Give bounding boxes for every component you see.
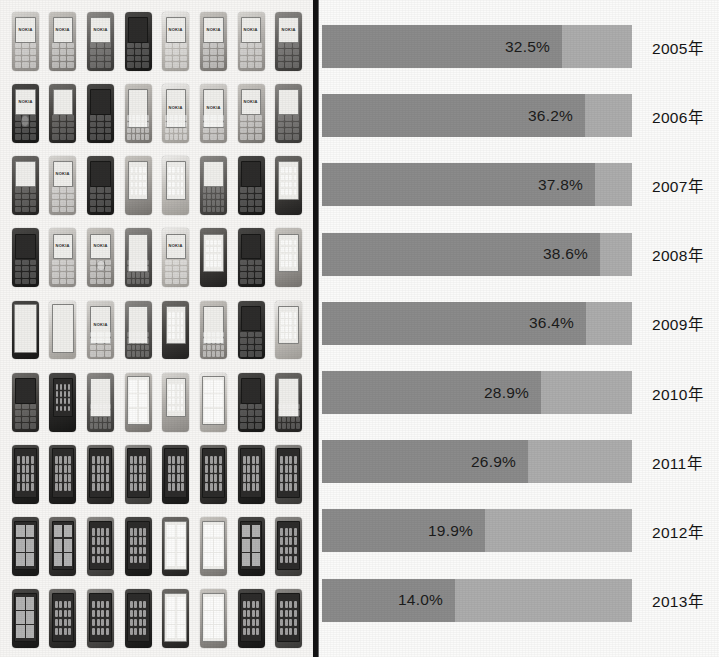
screen-tiles [129,380,147,422]
phone-screen [202,448,225,497]
nokia-brand-text: NOKIA [18,99,32,104]
screen-tile [281,326,284,332]
keypad-key [90,345,97,350]
keypad-key [103,417,107,422]
keypad-key [141,115,145,120]
phone-handset-icon: NOKIA [200,12,227,71]
screen-tile [143,465,146,473]
phone-cell: NOKIA [234,6,269,76]
keypad-key [145,134,149,139]
keypad-key [296,423,300,428]
keypad-key [203,207,207,212]
phone-cell [121,295,156,365]
screen-tile [167,597,175,610]
screen-tile [139,619,142,627]
keypad-key [212,332,216,337]
phone-keypad [203,332,225,357]
screen-tile [181,182,184,188]
screen-tile [280,556,283,564]
keypad-key [216,200,220,205]
keypad-key [296,404,300,409]
screen-tile [285,537,288,545]
screen-tile [214,247,217,253]
phone-cell [196,223,231,293]
keypad-key [97,332,104,337]
phone-cell [234,584,269,654]
keypad-key [255,272,262,277]
keypad-key [287,417,291,422]
keypad-key [127,122,131,127]
keypad-key [60,115,67,120]
screen-tile [139,483,142,491]
keypad-key [212,194,216,199]
nokia-brand-text: NOKIA [169,27,183,32]
nokia-brand-text: NOKIA [18,27,32,32]
bar-category-label: 2009年 [652,312,704,334]
keypad-key [127,272,131,277]
screen-tile [172,333,175,339]
phone-handset-icon [12,517,39,576]
phone-cell [83,150,118,220]
screen-tile [139,189,142,195]
keypad-key [105,266,112,271]
phone-screen [241,306,262,332]
keypad-key [248,115,255,120]
keypad-key [60,43,67,48]
screen-tile [294,254,297,260]
screen-tile [92,556,95,564]
keypad-key [165,43,172,48]
phone-handset-icon: NOKIA [275,12,302,71]
keypad-key [30,122,37,127]
keypad-key [218,43,225,48]
phone-cell [271,78,306,148]
phone-handset-icon [125,12,152,71]
screen-tile [218,247,221,253]
keypad-key [67,194,74,199]
keypad-key [221,332,225,337]
keypad-key [90,423,94,428]
screen-tile [97,528,100,536]
phone-keypad [127,332,149,357]
screen-tile [55,483,58,491]
keypad-key [142,62,149,67]
phone-screen [202,593,225,642]
keypad-key [278,134,285,139]
chart-bar-row: 26.9%2011年 [322,440,719,483]
keypad-key [255,332,262,337]
keypad-key [240,279,247,284]
phone-screen [52,304,75,353]
keypad-key [221,194,225,199]
screen-tile [285,556,288,564]
screen-tile [68,406,71,412]
screen-tile [177,167,180,173]
phone-screen: NOKIA [15,89,36,115]
screen-tile [55,601,58,609]
phone-handset-icon [12,373,39,432]
screen-tile [280,456,283,464]
keypad-key [212,351,216,356]
keypad-key [94,404,98,409]
screen-tile [143,628,146,636]
screen-tile [68,391,71,397]
screen-tile [130,610,133,618]
screen-tile [16,597,24,610]
phone-handset-icon: NOKIA [162,228,189,287]
keypad-key [136,115,140,120]
phone-cell [196,295,231,365]
keypad-key [30,423,37,428]
screen-tile [129,394,137,407]
keypad-key [293,56,300,61]
phone-cell [46,439,81,509]
phone-keypad [52,260,74,285]
phone-cell [8,150,43,220]
screen-tile [214,597,222,610]
keypad-key [90,56,97,61]
keypad-key [179,122,183,127]
screen-tile [243,474,246,482]
keypad-key [132,115,136,120]
keypad-key [60,134,67,139]
keypad-key [132,332,136,337]
screen-tile [139,409,147,422]
screen-tile [59,474,62,482]
keypad-key [291,417,295,422]
